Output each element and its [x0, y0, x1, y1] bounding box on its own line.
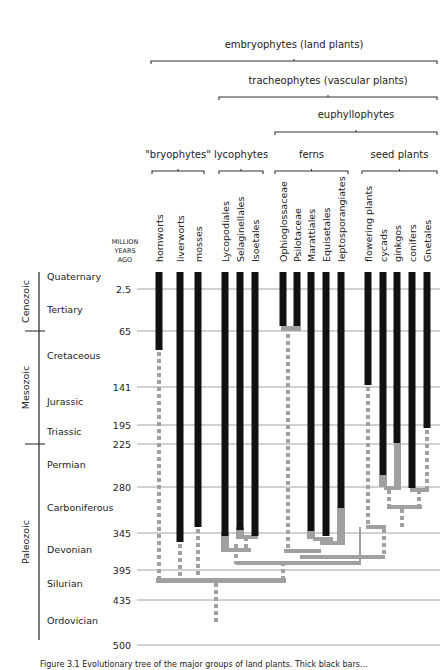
fossil-range-bar — [280, 272, 287, 326]
clade-bracket — [275, 169, 348, 174]
time-tick-label: 395 — [113, 565, 131, 576]
clade-bracket — [275, 130, 437, 135]
fossil-range-bar — [156, 272, 163, 350]
taxon-label: flowering plants — [363, 186, 374, 262]
fossil-range-bar — [380, 272, 387, 475]
time-tick-label: 345 — [113, 528, 131, 539]
phylogeny-figure: 2.565141195225280345395435500MILLIONYEAR… — [0, 0, 440, 670]
fossil-range-bar — [409, 272, 416, 488]
era-label: Cenozoic — [20, 280, 31, 323]
period-label: Jurassic — [46, 396, 83, 407]
period-label: Cretaceous — [47, 350, 101, 361]
taxon-label: Psilotaceae — [292, 208, 303, 262]
taxon-label: liverworts — [175, 215, 186, 262]
fossil-range-bar — [308, 272, 315, 531]
time-tick-label: 435 — [113, 595, 131, 606]
clade-label-seed-plants: seed plants — [371, 149, 429, 160]
fossil-range-bar — [252, 272, 259, 536]
time-tick-label: 2.5 — [116, 284, 131, 295]
time-tick-label: 280 — [113, 482, 131, 493]
period-label: Tertiary — [46, 304, 83, 315]
clade-label-lycophytes: lycophytes — [214, 149, 268, 160]
taxon-label: Ophioglossaceae — [278, 181, 289, 262]
taxon-label: leptosporangiates — [336, 176, 347, 262]
period-label: Ordovician — [47, 615, 98, 626]
clade-bracket — [362, 169, 437, 174]
axis-header-line: AGO — [118, 256, 133, 264]
taxon-label: cycads — [378, 229, 389, 262]
fossil-record-bars — [156, 272, 431, 542]
period-label: Devonian — [47, 544, 92, 555]
taxon-label: ginkgos — [392, 225, 403, 262]
phylogeny-tree: 2.565141195225280345395435500MILLIONYEAR… — [0, 0, 440, 670]
fossil-range-bar — [222, 272, 229, 536]
figure-caption: Figure 3.1 Evolutionary tree of the majo… — [40, 660, 368, 669]
taxon-label: Selaginellales — [235, 197, 246, 262]
clade-bracket — [219, 169, 263, 174]
era-label: Paleozoic — [20, 520, 31, 564]
fossil-range-bar — [323, 272, 330, 536]
taxon-label: Lycopodiales — [220, 201, 231, 262]
clade-label-euphyllophytes: euphyllophytes — [318, 109, 395, 120]
fossil-range-bar — [177, 272, 184, 542]
fossil-range-bar — [424, 272, 431, 428]
period-label: Carboniferous — [47, 502, 114, 513]
axis-header-line: YEARS — [113, 247, 135, 255]
time-tick-label: 141 — [113, 382, 131, 393]
clade-bracket — [151, 59, 437, 64]
period-label: Triassic — [46, 426, 82, 437]
clade-bracket — [219, 95, 437, 100]
period-label: Quaternary — [47, 271, 101, 282]
taxon-label: mosses — [193, 226, 204, 262]
axis-header-line: MILLION — [112, 238, 139, 246]
fossil-range-bar — [394, 272, 401, 443]
taxon-label: hornworts — [154, 214, 165, 262]
clade-label-tracheophytes: tracheophytes (vascular plants) — [248, 75, 407, 86]
fossil-range-bar — [195, 272, 202, 527]
period-label: Silurian — [47, 578, 83, 589]
taxon-label: Gnetales — [422, 220, 433, 262]
clade-label-embryophytes: embryophytes (land plants) — [225, 39, 364, 50]
taxon-label: Marattiales — [306, 209, 317, 262]
era-label: Mesozoic — [20, 366, 31, 409]
taxon-label: Isoetales — [250, 220, 261, 262]
fossil-range-bar — [338, 272, 345, 508]
fossil-range-bar — [237, 272, 244, 530]
fossil-range-bar — [365, 272, 372, 385]
period-label: Permian — [47, 459, 86, 470]
time-tick-label: 195 — [113, 420, 131, 431]
time-tick-label: 65 — [119, 326, 131, 337]
taxon-label: Equisetales — [321, 207, 332, 262]
taxon-label: conifers — [407, 224, 418, 262]
clade-label-bryophytes: "bryophytes" — [145, 149, 211, 160]
fossil-range-bar — [294, 272, 301, 326]
time-tick-label: 500 — [113, 640, 131, 651]
clade-label-ferns: ferns — [299, 149, 324, 160]
time-tick-label: 225 — [113, 439, 131, 450]
clade-bracket — [152, 169, 204, 174]
